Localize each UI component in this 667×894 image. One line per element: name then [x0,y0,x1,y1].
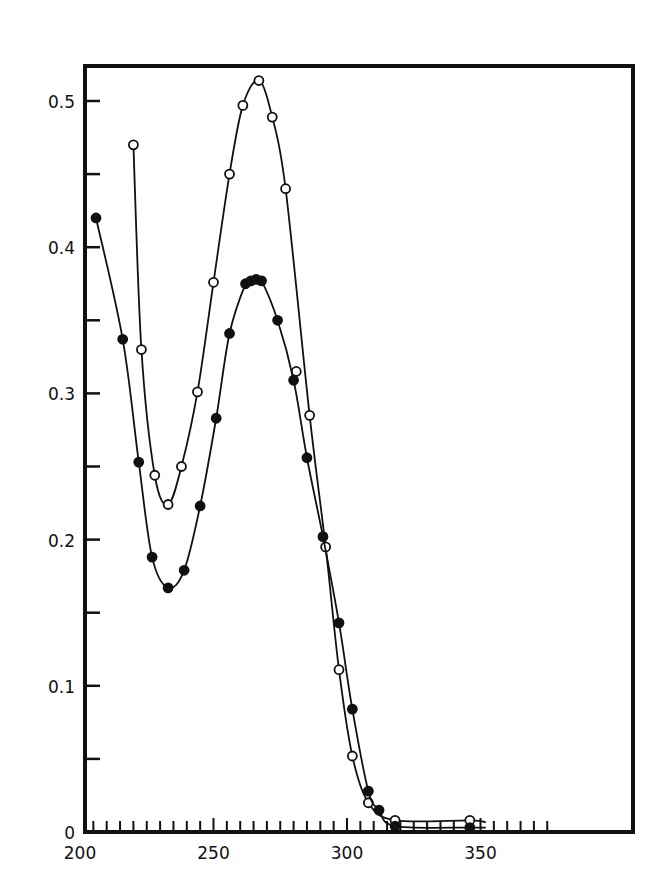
data-point-open [177,462,186,471]
data-point-filled [273,316,282,325]
series-line [96,218,486,828]
y-tick-label: 0.1 [48,677,75,697]
x-tick-label: 200 [64,843,96,863]
data-point-filled [134,458,143,467]
plot-frame [85,66,633,832]
data-point-filled [364,787,373,796]
data-point-filled [318,532,327,541]
data-point-open [129,140,138,149]
y-tick-label: 0.2 [48,531,75,551]
data-point-filled [391,822,400,831]
data-point-filled [212,414,221,423]
data-point-open [348,751,357,760]
data-point-open [334,665,343,674]
chart-canvas: 00.10.20.30.40.5200250300350 [0,0,667,894]
data-point-filled [92,213,101,222]
data-point-filled [302,453,311,462]
data-point-filled [118,335,127,344]
y-tick-label: 0.5 [48,92,75,112]
y-tick-label: 0.4 [48,238,75,258]
data-point-open [268,113,277,122]
data-point-filled [225,329,234,338]
data-point-open [254,76,263,85]
data-point-filled [348,705,357,714]
data-point-open [209,278,218,287]
data-point-open [305,411,314,420]
data-point-open [225,170,234,179]
data-point-filled [196,501,205,510]
x-tick-label: 350 [464,843,496,863]
data-point-open [150,471,159,480]
data-point-filled [180,566,189,575]
data-point-open [238,101,247,110]
data-point-filled [334,618,343,627]
data-point-filled [164,583,173,592]
data-point-filled [375,806,384,815]
y-tick-label: 0.3 [48,384,75,404]
data-point-filled [465,823,474,832]
data-point-filled [289,376,298,385]
x-tick-label: 300 [331,843,363,863]
series-line [133,80,485,822]
x-tick-label: 250 [197,843,229,863]
data-point-open [137,345,146,354]
data-point-open [164,500,173,509]
y-tick-label: 0 [64,823,75,843]
data-point-open [193,387,202,396]
data-point-open [281,184,290,193]
data-point-filled [148,553,157,562]
data-point-filled [257,276,266,285]
